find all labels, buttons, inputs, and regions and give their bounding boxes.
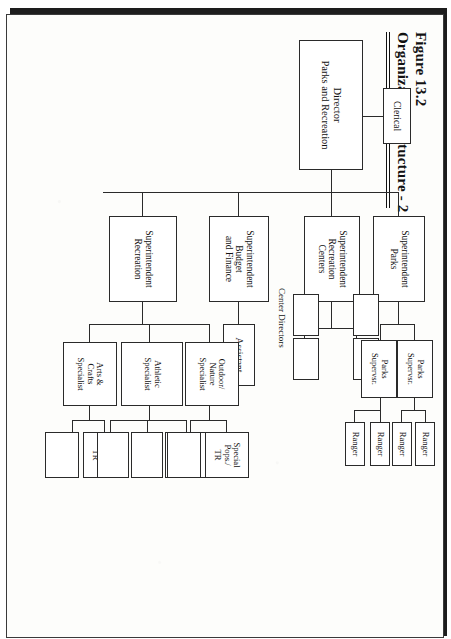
line-sup2-to-ranger3 — [380, 410, 381, 422]
special-pops-out-line2: Pops./ — [222, 442, 232, 467]
box-supt-parks-line2: Parks — [388, 230, 399, 288]
box-center-director-1[interactable] — [353, 294, 379, 336]
box-ranger-1[interactable]: Ranger — [415, 422, 435, 466]
line-arts-child-2 — [72, 420, 73, 432]
box-director-line2: Parks and Recreation — [319, 60, 331, 149]
parks-sup-1-line2: Supervsr. — [405, 353, 415, 385]
org-chart-canvas: Figure 13.2 Organizational Stucture - 2 … — [15, 26, 435, 626]
box-supt-budget-line2: Budget — [234, 230, 245, 288]
line-parks-stem — [398, 302, 399, 324]
line-parks-sup-spine — [381, 324, 415, 325]
box-supt-budget-line3: and Finance — [223, 230, 234, 288]
box-athletic-line1: Athletic — [152, 357, 162, 390]
box-ranger-3[interactable]: Ranger — [370, 422, 390, 466]
line-athletic-child-stem — [149, 406, 150, 420]
box-supt-rec-centers-line1: Superintendent — [337, 230, 348, 288]
line-athletic-child-3 — [110, 420, 111, 432]
box-supt-parks-line1: Superintendent — [399, 230, 410, 288]
box-special-pops-outdoor[interactable]: Special Pops./ TR — [205, 432, 249, 478]
box-supt-rec-centers-line3: Centers — [316, 230, 327, 288]
line-sup1-to-ranger1 — [425, 410, 426, 422]
line-sup1-ranger-stem — [414, 398, 415, 410]
parks-sup-2-line1: Parks — [379, 353, 389, 385]
line-to-supt-budget — [238, 192, 239, 216]
box-outdoor-nature-specialist[interactable]: Outdoor/ Nature Specialist — [185, 342, 239, 406]
box-parks-supervisor-1[interactable]: Parks Supervsr. — [397, 340, 433, 398]
box-arts-line3: Specialist — [76, 357, 86, 390]
box-supt-budget-line1: Superintendent — [244, 230, 255, 288]
box-outdoor-line3: Specialist — [198, 357, 208, 390]
line-clerical-drop — [363, 116, 383, 117]
box-parks-supervisor-2[interactable]: Parks Supervsr. — [361, 340, 397, 398]
parks-sup-2-line2: Supervsr. — [369, 353, 379, 385]
line-rec-stem — [142, 302, 143, 324]
ranger-4-label: Ranger — [350, 432, 360, 457]
box-director[interactable]: Director Parks and Recreation — [299, 40, 363, 170]
box-outdoor-line2: Nature — [207, 357, 217, 390]
box-center-director-4[interactable] — [293, 338, 319, 380]
box-athletic-line2: Specialist — [142, 357, 152, 390]
box-blank-athletic-child-2[interactable] — [97, 432, 129, 478]
box-blank-outdoor-child[interactable] — [167, 432, 201, 478]
box-supt-rec-line2: Recreation — [132, 230, 143, 288]
line-outdoor-child-1 — [226, 420, 227, 432]
line-to-supt-rec-centers — [331, 192, 332, 216]
parks-sup-1-line1: Parks — [415, 353, 425, 385]
box-outdoor-line1: Outdoor/ — [217, 357, 227, 390]
box-supt-recreation[interactable]: Superintendent Recreation — [109, 216, 177, 302]
line-outdoor-child-2 — [190, 420, 191, 432]
box-supt-rec-centers-line2: Recreation — [327, 230, 338, 288]
line-outdoor-child-spine — [191, 420, 227, 421]
line-athletic-child-spine — [111, 420, 187, 421]
line-sup2-ranger-stem — [380, 398, 381, 410]
box-director-line1: Director — [331, 60, 343, 149]
line-to-supt-parks — [398, 192, 399, 216]
line-to-outdoor — [209, 324, 210, 342]
ranger-3-label: Ranger — [375, 432, 385, 457]
scanned-page: Figure 13.2 Organizational Stucture - 2 … — [0, 0, 451, 639]
box-clerical-label: Clerical — [392, 101, 403, 131]
figure-label: Figure 13.2 — [412, 32, 429, 106]
line-sup1-ranger-spine — [402, 410, 426, 411]
line-sup2-ranger-spine — [355, 410, 381, 411]
line-to-arts-crafts — [89, 324, 90, 342]
line-arts-child-spine — [73, 420, 105, 421]
line-superintendent-spine — [103, 192, 399, 193]
box-supt-budget[interactable]: Superintendent Budget and Finance — [209, 216, 269, 302]
line-outdoor-child-stem — [209, 406, 210, 420]
line-athletic-child-2 — [147, 420, 148, 432]
ranger-2-label: Ranger — [397, 432, 407, 457]
box-blank-arts-child[interactable] — [45, 432, 79, 478]
line-to-supt-rec — [142, 192, 143, 216]
box-ranger-4[interactable]: Ranger — [345, 422, 365, 466]
line-to-parks-sup-2 — [380, 324, 381, 340]
line-to-parks-sup-1 — [414, 324, 415, 340]
special-pops-out-line3: TR — [213, 442, 223, 467]
box-arts-line2: Crafts — [85, 357, 95, 390]
box-supt-rec-centers[interactable]: Superintendent Recreation Centers — [304, 216, 360, 302]
line-arts-child-stem — [89, 406, 90, 420]
line-athletic-child-1 — [186, 420, 187, 432]
line-sup2-to-ranger4 — [354, 410, 355, 422]
box-center-director-3[interactable] — [293, 294, 319, 336]
line-rec-centers-stem — [331, 302, 332, 328]
box-clerical[interactable]: Clerical — [383, 88, 411, 144]
box-arts-crafts-specialist[interactable]: Arts & Crafts Specialist — [63, 342, 117, 406]
special-pops-out-line1: Special — [232, 442, 242, 467]
line-arts-child-1 — [104, 420, 105, 432]
line-to-athletic — [149, 324, 150, 342]
ranger-1-label: Ranger — [420, 432, 430, 457]
box-blank-athletic-child-1[interactable] — [131, 432, 163, 478]
page-sheet: Figure 13.2 Organizational Stucture - 2 … — [6, 14, 444, 638]
line-director-stem — [331, 170, 332, 192]
line-sup1-to-ranger2 — [401, 410, 402, 422]
box-ranger-2[interactable]: Ranger — [392, 422, 412, 466]
box-arts-line1: Arts & — [95, 357, 105, 390]
box-athletic-specialist[interactable]: Athletic Specialist — [121, 342, 183, 406]
line-specialist-spine — [90, 324, 210, 325]
box-supt-rec-line1: Superintendent — [143, 230, 154, 288]
line-budget-to-assistant — [238, 302, 239, 324]
center-directors-label: Center Directors — [277, 288, 287, 348]
box-supt-parks[interactable]: Superintendent Parks — [373, 216, 425, 302]
